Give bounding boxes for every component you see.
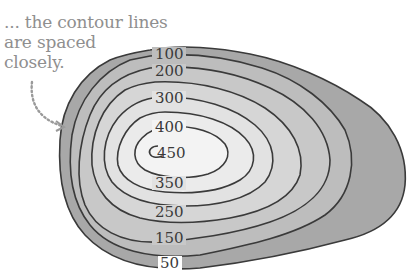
label-200: 200 — [155, 62, 184, 80]
contour-map: 100 200 300 400 450 350 250 150 50 — [0, 0, 418, 277]
label-400: 400 — [155, 118, 184, 136]
label-350: 350 — [155, 174, 184, 192]
dotted-arrow — [32, 82, 62, 126]
label-100: 100 — [155, 45, 184, 63]
label-300: 300 — [155, 89, 184, 107]
label-50: 50 — [160, 254, 179, 272]
label-450: 450 — [157, 144, 186, 162]
label-250: 250 — [155, 203, 184, 221]
label-150: 150 — [155, 229, 184, 247]
